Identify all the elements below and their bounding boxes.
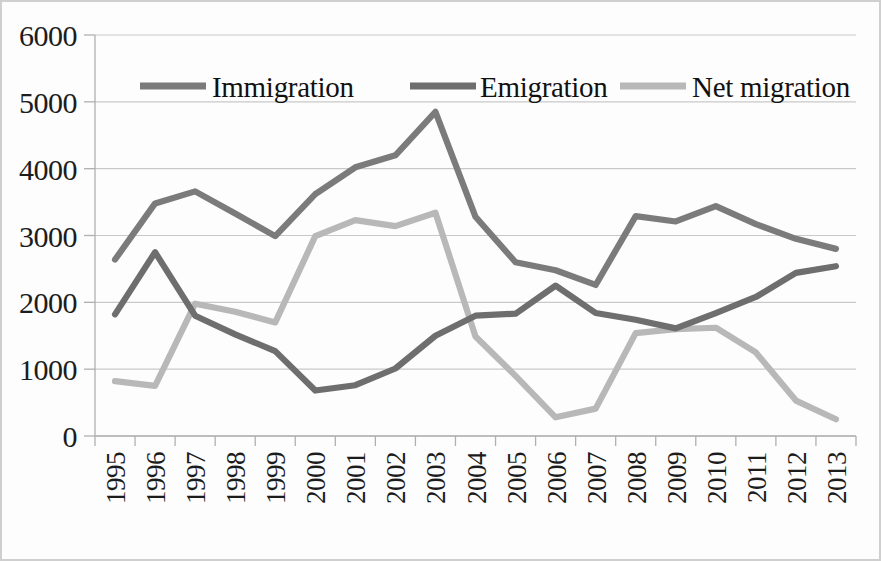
x-tick-label-2011: 2011 [742, 452, 772, 503]
x-axis-tick-marks [95, 436, 856, 446]
y-tick-label-3000: 3000 [19, 220, 77, 253]
series-line-emigration [115, 252, 836, 390]
y-tick-label-1000: 1000 [19, 353, 77, 386]
chart-legend: ImmigrationEmigrationNet migration [140, 71, 851, 103]
x-tick-label-2007: 2007 [582, 452, 612, 504]
y-tick-label-6000: 6000 [19, 19, 77, 52]
x-tick-label-2002: 2002 [381, 452, 411, 504]
x-tick-label-2000: 2000 [301, 452, 331, 504]
y-tick-label-4000: 4000 [19, 153, 77, 186]
x-tick-label-1997: 1997 [181, 452, 211, 504]
y-tick-label-5000: 5000 [19, 86, 77, 119]
x-tick-label-2008: 2008 [622, 452, 652, 504]
legend-label-net-migration: Net migration [692, 71, 851, 103]
x-tick-label-2013: 2013 [822, 452, 852, 504]
y-tick-label-2000: 2000 [19, 286, 77, 319]
x-tick-label-2003: 2003 [421, 452, 451, 504]
x-tick-label-2009: 2009 [662, 452, 692, 504]
y-tick-label-0: 0 [63, 420, 78, 453]
x-tick-label-2010: 2010 [702, 452, 732, 504]
data-series-lines [115, 112, 836, 419]
x-tick-label-1998: 1998 [221, 452, 251, 504]
legend-label-immigration: Immigration [212, 71, 354, 103]
x-tick-label-1995: 1995 [101, 452, 131, 504]
y-axis-tick-labels: 0100020003000400050006000 [19, 19, 77, 453]
y-axis-tick-marks [84, 35, 95, 436]
x-tick-label-2012: 2012 [782, 452, 812, 504]
x-tick-label-2001: 2001 [341, 452, 371, 504]
x-tick-label-2004: 2004 [462, 451, 492, 504]
x-axis-tick-labels: 1995199619971998199920002001200220032004… [101, 451, 852, 504]
x-tick-label-1996: 1996 [141, 452, 171, 504]
x-tick-label-1999: 1999 [261, 452, 291, 504]
chart-canvas: 0100020003000400050006000 19951996199719… [0, 0, 881, 561]
migration-line-chart: 0100020003000400050006000 19951996199719… [0, 0, 881, 561]
x-tick-label-2006: 2006 [542, 452, 572, 504]
series-line-immigration [115, 112, 836, 285]
legend-label-emigration: Emigration [480, 71, 608, 103]
x-tick-label-2005: 2005 [502, 452, 532, 504]
